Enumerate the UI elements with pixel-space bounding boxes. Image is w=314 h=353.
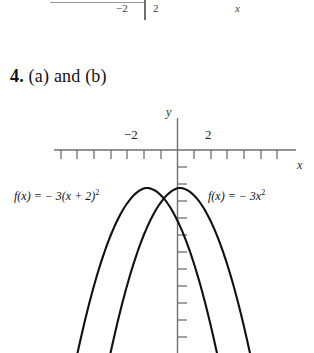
- top-fragment-axis-label-x: x: [235, 2, 240, 14]
- top-fragment-axis-tick: [144, 0, 146, 20]
- function-label-left: f(x) = − 3(x + 2)2: [14, 188, 99, 204]
- problem-text: (a) and (b): [29, 66, 107, 86]
- function-label-left-expression: f(x) = − 3(x + 2): [14, 189, 95, 203]
- function-label-right-expression: f(x) = − 3x: [208, 189, 261, 203]
- y-axis-ticks: [178, 167, 188, 337]
- axis-label-y: y: [166, 105, 171, 120]
- parabola-graph: y x −2 2 f(x) = − 3(x + 2)2 f(x) = − 3x2: [0, 100, 314, 353]
- problem-number: 4.: [10, 66, 24, 86]
- x-axis-ticks: [61, 150, 277, 159]
- graph-canvas: [0, 100, 314, 353]
- top-fragment-tick-label-negative-two: −2: [116, 2, 128, 14]
- x-tick-label-negative-two: −2: [124, 127, 138, 143]
- x-tick-label-two: 2: [205, 127, 212, 143]
- function-label-right: f(x) = − 3x2: [208, 188, 265, 204]
- function-label-left-exponent: 2: [95, 188, 99, 197]
- page-title: 4. (a) and (b): [10, 66, 107, 87]
- top-figure-fragment: −2 2 x: [0, 0, 314, 30]
- curve-f-x-plus-2-squared: [78, 188, 218, 353]
- curve-minus-3-x-squared: [111, 188, 251, 353]
- top-fragment-axis-line: [50, 2, 146, 3]
- axis-label-x: x: [297, 158, 302, 173]
- function-label-right-exponent: 2: [261, 188, 265, 197]
- top-fragment-tick-label-two: 2: [153, 2, 159, 14]
